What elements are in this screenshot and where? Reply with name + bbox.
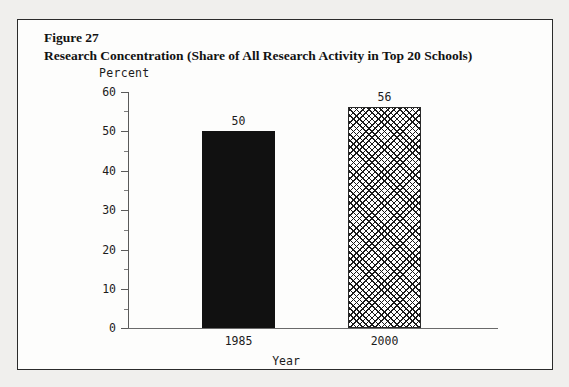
y-tick-label-40: 40 bbox=[90, 164, 116, 178]
y-tick-minor-55 bbox=[124, 111, 128, 112]
y-tick-minor-5 bbox=[124, 309, 128, 310]
bar-value-2000: 56 bbox=[348, 90, 421, 104]
bar-chart-plot: Percent 60 50 40 30 20 10 0 50 56 1985 bbox=[18, 20, 554, 371]
bar-2000[interactable] bbox=[348, 107, 421, 328]
y-tick-60 bbox=[121, 92, 128, 93]
x-tick-label-2000: 2000 bbox=[348, 334, 421, 348]
y-tick-label-30: 30 bbox=[90, 203, 116, 217]
y-tick-label-10: 10 bbox=[90, 282, 116, 296]
y-tick-minor-35 bbox=[124, 190, 128, 191]
x-axis-line bbox=[128, 328, 498, 329]
x-tick-label-1985: 1985 bbox=[202, 334, 275, 348]
y-axis-line bbox=[128, 92, 129, 329]
y-tick-20 bbox=[121, 250, 128, 251]
y-tick-30 bbox=[121, 210, 128, 211]
y-tick-label-60: 60 bbox=[90, 85, 116, 99]
y-tick-label-20: 20 bbox=[90, 243, 116, 257]
y-tick-label-0: 0 bbox=[90, 321, 116, 335]
y-tick-40 bbox=[121, 171, 128, 172]
bar-value-1985: 50 bbox=[202, 114, 275, 128]
y-axis-label: Percent bbox=[99, 66, 150, 80]
y-tick-minor-25 bbox=[124, 230, 128, 231]
bar-1985[interactable] bbox=[202, 131, 275, 328]
y-tick-50 bbox=[121, 131, 128, 132]
x-axis-label: Year bbox=[18, 354, 554, 368]
y-tick-10 bbox=[121, 289, 128, 290]
y-tick-label-50: 50 bbox=[90, 124, 116, 138]
y-tick-minor-45 bbox=[124, 151, 128, 152]
figure-frame: Figure 27 Research Concentration (Share … bbox=[17, 19, 553, 370]
y-tick-minor-15 bbox=[124, 269, 128, 270]
y-tick-0 bbox=[121, 328, 128, 329]
